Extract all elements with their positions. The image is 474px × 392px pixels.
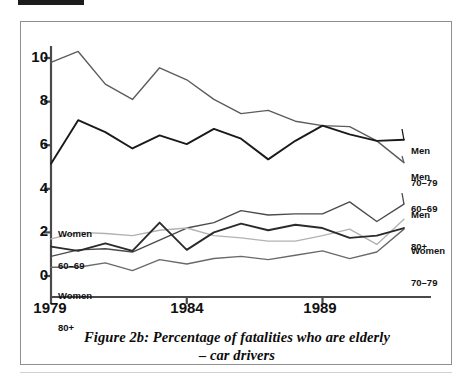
y-tick-label-6: 6: [22, 136, 48, 152]
figure-page: 10 8 6 4 2 0 1979 1984 1989 Men 70–79 Me…: [0, 0, 474, 392]
series-label-men-80-plus-line1: Men: [411, 210, 430, 221]
y-tick-label-0: 0: [22, 267, 48, 283]
figure-caption: Figure 2b: Percentage of fatalities who …: [0, 329, 474, 364]
series-label-women-70-79-line1: Women: [411, 246, 445, 257]
series-label-women-70-79-line2: 70–79: [411, 278, 445, 289]
scan-artifact-bar: [18, 0, 84, 5]
y-tick-label-10: 10: [22, 49, 48, 65]
series-label-women-80-plus-line1: Women: [58, 291, 92, 302]
y-tick-label-8: 8: [22, 92, 48, 108]
series-label-women-70-79: Women 70–79: [411, 224, 445, 311]
page-bottom-rule: [20, 372, 452, 373]
series-label-women-60-69-line1: Women: [58, 229, 92, 240]
y-tick-label-2: 2: [22, 223, 48, 239]
y-tick-label-4: 4: [22, 180, 48, 196]
x-tick-label-1989: 1989: [290, 300, 350, 316]
figure-caption-line2: – car drivers: [0, 347, 474, 365]
figure-caption-line1: Figure 2b: Percentage of fatalities who …: [0, 329, 474, 347]
x-tick-label-1984: 1984: [157, 300, 217, 316]
series-label-men-70-79-line1: Men: [411, 172, 437, 183]
